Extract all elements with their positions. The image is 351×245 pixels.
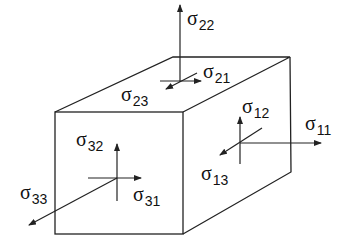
sigma-symbol: σ	[203, 60, 214, 82]
sigma-symbol: σ	[133, 183, 144, 205]
label-sigma21: σ21	[203, 61, 230, 81]
subscript: 13	[213, 172, 229, 188]
label-sigma13: σ13	[201, 163, 228, 183]
sigma-symbol: σ	[187, 7, 198, 29]
sigma-symbol: σ	[20, 181, 31, 203]
sigma-symbol: σ	[76, 128, 87, 150]
subscript: 31	[145, 193, 161, 209]
label-sigma33: σ33	[20, 182, 47, 202]
subscript: 32	[88, 138, 104, 154]
label-sigma32: σ32	[76, 129, 103, 149]
sigma13-arrow	[220, 128, 262, 155]
subscript: 12	[254, 105, 270, 121]
label-sigma12: σ12	[242, 96, 269, 116]
sigma-symbol: σ	[121, 83, 132, 105]
subscript: 22	[199, 17, 215, 33]
subscript: 23	[133, 93, 149, 109]
label-sigma31: σ31	[133, 184, 160, 204]
label-sigma11: σ11	[305, 113, 331, 133]
sigma-symbol: σ	[201, 162, 212, 184]
label-sigma23: σ23	[121, 84, 148, 104]
sigma-symbol: σ	[242, 95, 253, 117]
sigma-symbol: σ	[305, 112, 316, 134]
label-sigma22: σ22	[187, 8, 214, 28]
subscript: 33	[32, 191, 48, 207]
subscript: 21	[215, 70, 231, 86]
subscript: 11	[317, 122, 332, 138]
stress-cube-diagram	[0, 0, 351, 245]
